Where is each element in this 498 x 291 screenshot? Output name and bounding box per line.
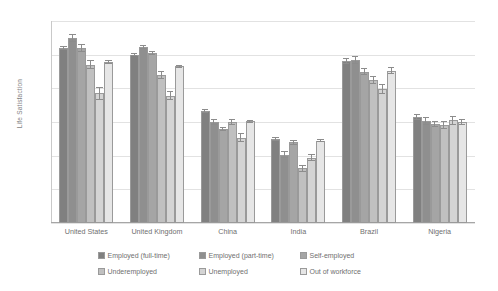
bar[interactable] <box>440 125 449 223</box>
bar[interactable] <box>148 53 157 223</box>
bar[interactable] <box>77 48 86 223</box>
bar[interactable] <box>422 121 431 223</box>
bar[interactable] <box>369 80 378 223</box>
bar[interactable] <box>413 117 422 223</box>
bar[interactable] <box>228 122 237 223</box>
bar-with-error[interactable] <box>378 21 387 223</box>
bar[interactable] <box>360 72 369 224</box>
bar-with-error[interactable] <box>148 21 157 223</box>
bar[interactable] <box>351 60 360 223</box>
bar[interactable] <box>298 168 307 223</box>
bar-with-error[interactable] <box>86 21 95 223</box>
bar[interactable] <box>458 122 467 223</box>
bar-with-error[interactable] <box>166 21 175 223</box>
bar[interactable] <box>237 138 246 223</box>
bar-with-error[interactable] <box>387 21 396 223</box>
bar[interactable] <box>130 55 139 223</box>
bar[interactable] <box>95 93 104 223</box>
bar[interactable] <box>175 66 184 223</box>
legend-item[interactable]: Self-employed <box>300 252 401 259</box>
bar-with-error[interactable] <box>201 21 210 223</box>
error-bar <box>81 44 82 52</box>
legend-item[interactable]: Employed (full-time) <box>98 252 199 259</box>
bar-with-error[interactable] <box>228 21 237 223</box>
bar-with-error[interactable] <box>280 21 289 223</box>
bar-with-error[interactable] <box>104 21 113 223</box>
legend-swatch <box>98 252 105 259</box>
bar-group <box>122 21 193 223</box>
bar[interactable] <box>68 38 77 223</box>
bar[interactable] <box>219 129 228 223</box>
bar[interactable] <box>342 61 351 223</box>
bar-with-error[interactable] <box>271 21 280 223</box>
bar-with-error[interactable] <box>246 21 255 223</box>
bar-with-error[interactable] <box>157 21 166 223</box>
chart-legend: Employed (full-time)Employed (part-time)… <box>0 252 498 275</box>
bar-group <box>192 21 263 223</box>
bar[interactable] <box>104 62 113 223</box>
bar-with-error[interactable] <box>210 21 219 223</box>
bar-with-error[interactable] <box>422 21 431 223</box>
legend-item[interactable]: Employed (part-time) <box>199 252 300 259</box>
error-bar <box>161 71 162 78</box>
bar-with-error[interactable] <box>307 21 316 223</box>
legend-swatch <box>300 268 307 275</box>
error-bar <box>311 154 312 161</box>
bar[interactable] <box>139 47 148 223</box>
bar-with-error[interactable] <box>449 21 458 223</box>
bar-with-error[interactable] <box>413 21 422 223</box>
legend-label: Out of workforce <box>310 268 361 275</box>
bar-with-error[interactable] <box>130 21 139 223</box>
bar[interactable] <box>431 124 440 223</box>
error-bar <box>434 121 435 127</box>
legend-item[interactable]: Out of workforce <box>300 268 401 275</box>
bar-chart: Life Satisfaction 2345678 United StatesU… <box>0 0 498 291</box>
bar[interactable] <box>280 155 289 223</box>
bar[interactable] <box>289 142 298 223</box>
bar-with-error[interactable] <box>77 21 86 223</box>
bar[interactable] <box>316 141 325 223</box>
bar-with-error[interactable] <box>139 21 148 223</box>
legend-item[interactable]: Unemployed <box>199 268 300 275</box>
legend-item[interactable]: Underemployed <box>98 268 199 275</box>
error-bar <box>63 46 64 50</box>
error-bar <box>231 119 232 126</box>
plot-area <box>51 21 475 223</box>
bar[interactable] <box>59 48 68 223</box>
bar-with-error[interactable] <box>316 21 325 223</box>
bar-with-error[interactable] <box>360 21 369 223</box>
bar[interactable] <box>157 75 166 223</box>
bar-with-error[interactable] <box>458 21 467 223</box>
bar[interactable] <box>201 111 210 223</box>
bar-with-error[interactable] <box>298 21 307 223</box>
bar-with-error[interactable] <box>237 21 246 223</box>
bar-with-error[interactable] <box>440 21 449 223</box>
bar[interactable] <box>378 89 387 223</box>
bar-with-error[interactable] <box>95 21 104 223</box>
bar-with-error[interactable] <box>59 21 68 223</box>
bar[interactable] <box>86 65 95 223</box>
legend-swatch <box>199 252 206 259</box>
bar-with-error[interactable] <box>431 21 440 223</box>
error-bar <box>373 76 374 85</box>
error-bar <box>99 87 100 100</box>
bar-with-error[interactable] <box>369 21 378 223</box>
bar[interactable] <box>210 122 219 223</box>
bar-with-error[interactable] <box>342 21 351 223</box>
bar[interactable] <box>166 96 175 223</box>
error-bar <box>416 114 417 121</box>
bar[interactable] <box>449 120 458 223</box>
bar[interactable] <box>271 139 280 223</box>
bar-groups <box>51 21 475 223</box>
bar[interactable] <box>387 71 396 224</box>
error-bar <box>72 34 73 41</box>
bar[interactable] <box>246 121 255 223</box>
bar[interactable] <box>307 158 316 223</box>
bar-with-error[interactable] <box>68 21 77 223</box>
bar-with-error[interactable] <box>175 21 184 223</box>
bar-with-error[interactable] <box>219 21 228 223</box>
bar-with-error[interactable] <box>351 21 360 223</box>
bar-with-error[interactable] <box>289 21 298 223</box>
bar-group <box>51 21 122 223</box>
error-bar <box>134 53 135 56</box>
